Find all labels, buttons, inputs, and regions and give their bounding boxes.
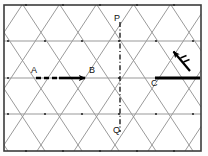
label-point-b: B	[89, 66, 95, 75]
lattice-svg	[0, 0, 208, 156]
label-point-q: Q	[113, 126, 120, 135]
lattice-figure: A B C P Q	[0, 0, 208, 156]
label-point-a: A	[31, 66, 37, 75]
label-point-c: C	[151, 79, 158, 88]
label-point-p: P	[114, 14, 120, 23]
